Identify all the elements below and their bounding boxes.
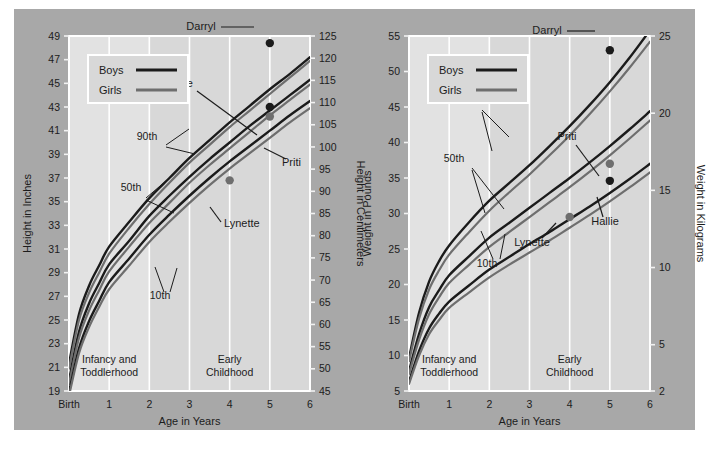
- y-axis-left-tick-label: 45: [48, 77, 60, 89]
- y-axis-right-tick-label: 110: [319, 96, 336, 108]
- x-axis-tick-label: 3: [527, 398, 533, 410]
- growth-chart-figure: 19212325272931333537394143454749Height i…: [0, 0, 709, 457]
- zone-label-1: Toddlerhood: [80, 366, 138, 378]
- zone-label-1: Toddlerhood: [420, 366, 478, 378]
- y-axis-left-tick-label: 15: [388, 314, 400, 326]
- y-axis-left-title: Weight in Pounds: [361, 170, 373, 257]
- y-axis-left-tick-label: 27: [48, 290, 60, 302]
- y-axis-right-tick-label: 90: [319, 185, 331, 197]
- percentile-label: 10th: [150, 289, 171, 301]
- y-axis-left-tick-label: 19: [48, 385, 60, 397]
- y-axis-right-tick-label: 60: [319, 318, 331, 330]
- legend: BoysGirls: [88, 55, 188, 103]
- y-axis-right-tick-label: 95: [319, 163, 331, 175]
- y-axis-left-tick-label: 49: [48, 30, 60, 42]
- x-axis-tick-label: 5: [267, 398, 273, 410]
- data-point-darryl[interactable]: [606, 46, 614, 54]
- y-axis-left-tick-label: 43: [48, 101, 60, 113]
- data-point-label-darryl: Darryl: [186, 20, 215, 32]
- zone-label-2: Early: [558, 353, 583, 365]
- y-axis-left-tick-label: 21: [48, 361, 60, 373]
- height-chart-container: 19212325272931333537394143454749Height i…: [14, 9, 369, 430]
- percentile-label: 90th: [137, 130, 158, 142]
- weight-chart-svg: 510152025303540455055Weight in Pounds251…: [354, 9, 709, 430]
- x-axis-title: Age in Years: [499, 415, 561, 427]
- y-axis-left-tick-label: 10: [388, 349, 400, 361]
- x-axis-tick-label: Birth: [58, 398, 80, 410]
- y-axis-left-tick-label: 25: [48, 314, 60, 326]
- x-axis-tick-label: 1: [446, 398, 452, 410]
- percentile-label: 50th: [121, 181, 142, 193]
- y-axis-left-tick-label: 55: [388, 30, 400, 42]
- data-point-darryl[interactable]: [266, 39, 274, 47]
- data-point-hallie[interactable]: [266, 103, 274, 111]
- y-axis-left-tick-label: 35: [388, 172, 400, 184]
- data-point-label-darryl: Darryl: [532, 24, 561, 36]
- x-axis-tick-label: 2: [486, 398, 492, 410]
- y-axis-right-tick-label: 5: [659, 338, 665, 350]
- y-axis-left-tick-label: 29: [48, 266, 60, 278]
- x-axis-tick-label: Birth: [398, 398, 420, 410]
- zone-label-1: Infancy and: [82, 353, 136, 365]
- y-axis-right-tick-label: 50: [319, 362, 331, 374]
- y-axis-right-tick-label: 125: [319, 30, 337, 42]
- y-axis-right-tick-label: 10: [659, 261, 671, 273]
- legend-label-boys: Boys: [99, 64, 124, 76]
- x-axis-tick-label: 5: [607, 398, 613, 410]
- y-axis-left-tick-label: 35: [48, 195, 60, 207]
- y-axis-left-tick-label: 23: [48, 337, 60, 349]
- y-axis-right-tick-label: 45: [319, 385, 331, 397]
- data-point-lynette[interactable]: [225, 176, 233, 184]
- y-axis-left-tick-label: 30: [388, 207, 400, 219]
- legend-label-girls: Girls: [439, 84, 462, 96]
- y-axis-right-tick-label: 105: [319, 118, 337, 130]
- y-axis-left-tick-label: 37: [48, 172, 60, 184]
- data-point-lynette[interactable]: [565, 213, 573, 221]
- height-chart-svg: 19212325272931333537394143454749Height i…: [14, 9, 369, 430]
- chart-panel: 19212325272931333537394143454749Height i…: [14, 9, 695, 430]
- y-axis-left-tick-label: 31: [48, 243, 60, 255]
- svg-height-root: 19212325272931333537394143454749Height i…: [21, 20, 367, 427]
- data-point-label-lynette: Lynette: [514, 236, 550, 248]
- x-axis-tick-label: 4: [567, 398, 573, 410]
- y-axis-right-tick-label: 80: [319, 229, 331, 241]
- y-axis-right-tick-label: 15: [659, 184, 671, 196]
- y-axis-left-tick-label: 33: [48, 219, 60, 231]
- data-point-label-lynette: Lynette: [224, 217, 260, 229]
- legend: BoysGirls: [428, 55, 528, 103]
- data-point-priti[interactable]: [606, 160, 614, 168]
- x-axis-tick-label: 1: [106, 398, 112, 410]
- y-axis-left-tick-label: 20: [388, 278, 400, 290]
- zone-label-2: Early: [218, 353, 243, 365]
- x-axis-tick-label: 6: [307, 398, 313, 410]
- svg-weight-root: 510152025303540455055Weight in Pounds251…: [361, 24, 707, 427]
- percentile-label: 10th: [477, 257, 498, 269]
- y-axis-left-tick-label: 39: [48, 148, 60, 160]
- y-axis-right-tick-label: 25: [659, 30, 671, 42]
- y-axis-right-tick-label: 65: [319, 296, 331, 308]
- y-axis-right-tick-label: 75: [319, 251, 331, 263]
- x-axis-title: Age in Years: [159, 415, 221, 427]
- y-axis-left-tick-label: 25: [388, 243, 400, 255]
- y-axis-right-tick-label: 115: [319, 74, 336, 86]
- x-axis-tick-label: 3: [187, 398, 193, 410]
- legend-label-boys: Boys: [439, 64, 464, 76]
- zone-label-1: Infancy and: [422, 353, 476, 365]
- y-axis-left-tick-label: 41: [48, 124, 60, 136]
- y-axis-left-title: Height in Inches: [21, 174, 33, 253]
- y-axis-right-tick-label: 2: [659, 385, 665, 397]
- weight-chart-container: 510152025303540455055Weight in Pounds251…: [354, 9, 709, 430]
- zone-label-2: Childhood: [206, 366, 253, 378]
- data-point-priti[interactable]: [266, 112, 274, 120]
- y-axis-left-tick-label: 5: [394, 385, 400, 397]
- data-point-label-hallie: Hallie: [591, 215, 619, 227]
- y-axis-right-tick-label: 70: [319, 274, 331, 286]
- data-point-hallie[interactable]: [606, 177, 614, 185]
- y-axis-right-tick-label: 100: [319, 141, 337, 153]
- x-axis-tick-label: 4: [227, 398, 233, 410]
- zone-label-2: Childhood: [546, 366, 593, 378]
- y-axis-right-tick-label: 55: [319, 340, 331, 352]
- y-axis-left-tick-label: 50: [388, 65, 400, 77]
- y-axis-right-tick-label: 20: [659, 107, 671, 119]
- x-axis-tick-label: 6: [647, 398, 653, 410]
